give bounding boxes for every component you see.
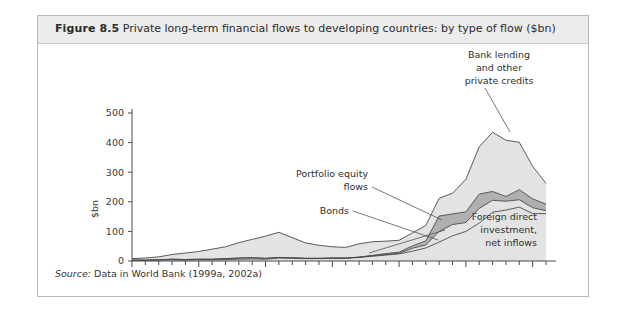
annotation-leader-line	[485, 88, 510, 132]
annotation-text: Portfolio equity	[296, 168, 368, 179]
annotation-text: flows	[343, 181, 368, 192]
annotation-bank-lending: Bank lendingand otherprivate credits	[465, 49, 534, 132]
annotation-leader-line	[372, 187, 442, 220]
y-axis-title: $bn	[89, 200, 100, 218]
annotation-text: Foreign direct	[472, 211, 538, 222]
figure-title: Private long-term financial flows to dev…	[123, 22, 556, 35]
source-label: Source:	[55, 268, 91, 279]
source-note: Source: Data in World Bank (1999a, 2002a…	[55, 268, 262, 279]
chart-area: 0100200300400500197019751980198519901995…	[38, 44, 590, 268]
annotation-text: private credits	[465, 75, 534, 86]
y-tick-label: 100	[106, 226, 124, 237]
y-tick-label: 200	[106, 196, 124, 207]
figure-caption: Figure 8.5 Private long-term financial f…	[55, 22, 556, 35]
annotation-text: Bank lending	[468, 49, 530, 60]
figure-header: Figure 8.5 Private long-term financial f…	[38, 16, 588, 44]
y-tick-label: 0	[118, 255, 124, 266]
stacked-area-bands	[132, 132, 546, 261]
figure-container: Figure 8.5 Private long-term financial f…	[37, 15, 589, 297]
y-tick-label: 400	[106, 137, 124, 148]
source-text: Data in World Bank (1999a, 2002a)	[91, 268, 262, 279]
annotation-text: and other	[476, 62, 522, 73]
y-tick-label: 300	[106, 167, 124, 178]
annotation-text: Bonds	[320, 205, 349, 216]
figure-number: Figure 8.5	[55, 22, 119, 35]
annotation-portfolio-equity: Portfolio equityflows	[296, 168, 442, 220]
annotation-text: net inflows	[485, 237, 537, 248]
y-tick-label: 500	[106, 107, 124, 118]
annotation-text: investment,	[480, 224, 537, 235]
